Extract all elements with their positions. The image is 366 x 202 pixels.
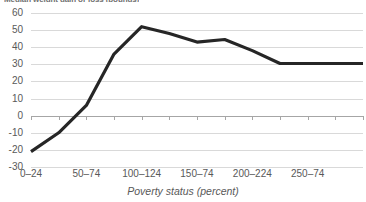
x-axis-tick-label: 150–74	[180, 168, 213, 180]
x-axis-tick-label: 200–224	[233, 168, 272, 180]
x-axis-title: Poverty status (percent)	[0, 185, 366, 197]
series-layer	[31, 13, 363, 167]
data-series-line	[31, 27, 363, 152]
x-axis-tick-label: 50–74	[72, 168, 100, 180]
y-axis-tick-label: 40	[0, 42, 23, 52]
y-axis-tick-label: -10	[0, 128, 23, 138]
x-axis-tick-labels: 0–2450–74100–124150–74200–224250–74	[31, 168, 363, 182]
x-axis-tick-label: 250–74	[291, 168, 324, 180]
y-axis-tick-label: 50	[0, 25, 23, 35]
x-axis-tick-mark	[363, 116, 364, 120]
plot-area: 6050403020100-10-20-30	[31, 13, 363, 167]
line-chart: Median weight gain or loss (pounds) 6050…	[0, 0, 366, 202]
chart-title: Median weight gain or loss (pounds)	[4, 0, 139, 2]
y-axis-tick-label: 20	[0, 76, 23, 86]
y-axis-tick-label: -20	[0, 145, 23, 155]
y-axis-tick-label: 10	[0, 94, 23, 104]
x-axis-tick-label: 0–24	[20, 168, 42, 180]
y-axis-tick-label: 60	[0, 8, 23, 18]
x-axis-tick-label: 100–124	[122, 168, 161, 180]
y-axis-tick-label: 30	[0, 59, 23, 69]
y-axis-tick-label: 0	[0, 111, 23, 121]
